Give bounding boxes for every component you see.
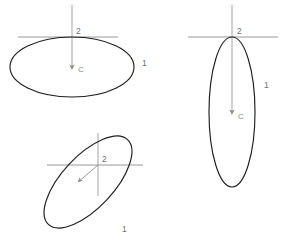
ellipse-outline-tilted (29, 122, 146, 235)
label-2-panel2: 2 (102, 154, 107, 164)
label-1-panel3: 1 (264, 80, 269, 90)
ellipse-diagram: 2 1 C 2 1 2 1 C (0, 0, 286, 235)
label-2-panel3: 2 (237, 26, 242, 36)
label-1-panel1: 1 (142, 58, 147, 68)
label-2-panel1: 2 (76, 26, 81, 36)
figure-canvas: 2 1 C 2 1 2 1 C (0, 0, 286, 235)
label-1-panel2: 1 (122, 224, 127, 234)
oblique-arrow-line-2 (80, 165, 99, 181)
label-c-panel1: C (78, 65, 84, 74)
oblique-arrowhead-2 (77, 177, 83, 183)
panel-wide-ellipse: 2 1 C (10, 5, 147, 97)
label-c-panel3: C (238, 112, 244, 121)
panel-tilted-ellipse: 2 1 (29, 122, 146, 235)
panel-tall-ellipse: 2 1 C (188, 5, 278, 187)
